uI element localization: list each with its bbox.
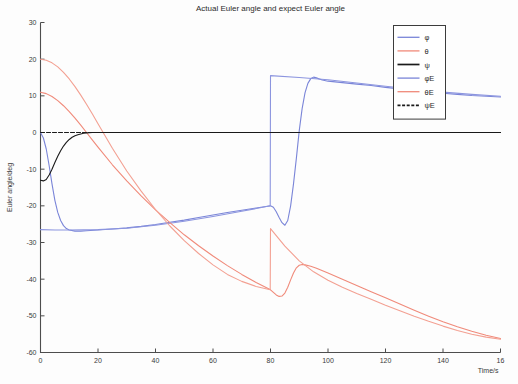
- legend-box: [394, 26, 446, 120]
- y-axis-label: Euler angle/deg: [6, 163, 14, 212]
- legend-label-θ: θ: [425, 47, 429, 56]
- x-tick-label: 40: [152, 357, 160, 364]
- x-tick-label: 60: [209, 357, 217, 364]
- y-tick-label: -10: [26, 166, 36, 173]
- y-tick-label: -20: [26, 202, 36, 209]
- x-tick-label: 0: [39, 357, 43, 364]
- legend-label-φ: φ: [425, 33, 430, 42]
- legend-label-φE: φE: [425, 74, 435, 83]
- euler-angle-chart: Actual Euler angle and expect Euler angl…: [0, 0, 518, 384]
- x-tick-label: 140: [437, 357, 449, 364]
- x-axis-label: Time/s: [478, 367, 499, 374]
- y-tick-label: 20: [29, 56, 37, 63]
- y-tick-label: -50: [26, 312, 36, 319]
- y-tick-label: 30: [29, 19, 37, 26]
- legend-label-ψ: ψ: [425, 61, 430, 70]
- chart-title: Actual Euler angle and expect Euler angl…: [196, 4, 346, 13]
- legend-label-θE: θE: [425, 88, 434, 97]
- x-tick-label: 20: [94, 357, 102, 364]
- x-tick-label: 120: [380, 357, 392, 364]
- x-tick-label: 80: [267, 357, 275, 364]
- y-tick-label: 10: [29, 92, 37, 99]
- y-tick-label: -60: [26, 349, 36, 356]
- legend-label-ψE: ψE: [425, 101, 435, 110]
- x-tick-label: 100: [322, 357, 334, 364]
- y-tick-label: 0: [33, 129, 37, 136]
- figure-canvas: Actual Euler angle and expect Euler angl…: [0, 0, 518, 384]
- x-tick-label: 16: [497, 357, 505, 364]
- y-tick-label: -30: [26, 239, 36, 246]
- y-tick-label: -40: [26, 276, 36, 283]
